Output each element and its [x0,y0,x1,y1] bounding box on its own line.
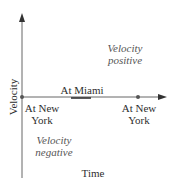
positive-region-line1: Velocity [103,42,147,54]
y-axis-arrow-icon [19,13,25,22]
negative-region-line2: negative [31,146,77,158]
end-label: At New York [120,102,158,126]
x-axis-arrow-icon [158,94,167,100]
miami-label: At Miami [60,84,104,96]
origin-point-icon [20,95,24,99]
y-axis-label: Velocity [7,74,19,120]
end-label-line2: York [120,114,158,126]
end-label-line1: At New [120,102,158,114]
origin-label: At New York [24,102,60,126]
negative-region-label: Velocity negative [31,134,77,158]
origin-label-line2: York [24,114,60,126]
positive-region-label: Velocity positive [103,42,147,66]
negative-region-line1: Velocity [31,134,77,146]
positive-region-line2: positive [103,54,147,66]
origin-label-line1: At New [24,102,60,114]
x-axis-label: Time [78,167,108,179]
velocity-time-diagram: Velocity At New York At Miami At New Yor… [0,0,176,184]
end-point-icon [136,95,140,99]
